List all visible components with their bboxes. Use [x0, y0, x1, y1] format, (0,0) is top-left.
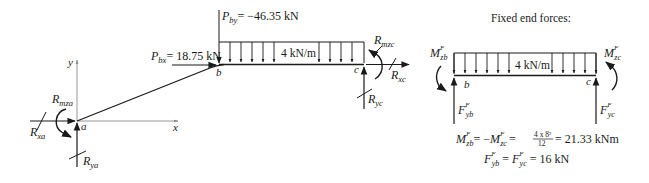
rxa-label: Rxa [29, 125, 45, 141]
mzb-label: MFzb [429, 44, 447, 62]
rmza-label: Rmza [51, 92, 73, 108]
structural-diagram-canvas: y x 4 kN/m Pby= −46.35 k [0, 0, 649, 183]
mzc-moment-arrow [606, 62, 617, 90]
udl-label-left: 4 kN/m [281, 47, 316, 59]
node-c-fixed-label: c [586, 75, 591, 87]
fixed-end-forces-title: Fixed end forces: [491, 12, 571, 24]
force-equation: FFyb=FFyc= 16 kN [483, 150, 569, 168]
left-frame-diagram: y x 4 kN/m Pby= −46.35 k [29, 9, 409, 170]
mzb-moment-arrow [437, 66, 446, 91]
rxc-label: Rxc [390, 68, 406, 84]
fraction-numerator: 4 x 8² [534, 130, 552, 139]
rmzc-label: Rmzc [373, 33, 395, 49]
svg-text:FFyb=FFyc= 16 kN: FFyb=FFyc= 16 kN [483, 150, 569, 168]
fixed-end-forces-diagram: Fixed end forces: 4 kN/m b c [429, 12, 621, 168]
fraction-denominator: 12 [538, 139, 546, 148]
node-b-label: b [216, 66, 222, 78]
pbx-label: Pbx= 18.75 kN [150, 49, 221, 65]
fyc-label: FFyc [599, 101, 615, 119]
ryc-label: Ryc [367, 92, 383, 108]
node-c-label: c [354, 63, 359, 75]
x-axis-label: x [172, 121, 178, 133]
svg-text:MFzb= −MFzc=: MFzb= −MFzc= [455, 130, 516, 148]
y-axis-label: y [67, 56, 73, 68]
rmza-moment-arrow [56, 109, 71, 137]
inclined-member-ab [77, 65, 224, 122]
pby-label: Pby= −46.35 kN [221, 9, 299, 25]
moment-equation: MFzb= −MFzc= 4 x 8² 12 = 21.33 kNm [455, 130, 619, 148]
node-a-label: a [81, 120, 87, 132]
moment-result: = 21.33 kNm [555, 132, 619, 146]
udl-label-right: 4 kN/m [515, 59, 550, 71]
node-b-fixed-label: b [464, 78, 470, 90]
fyb-label: FFyb [457, 101, 473, 119]
rya-label: Rya [82, 154, 98, 170]
mzc-label: MFzc [603, 44, 621, 62]
